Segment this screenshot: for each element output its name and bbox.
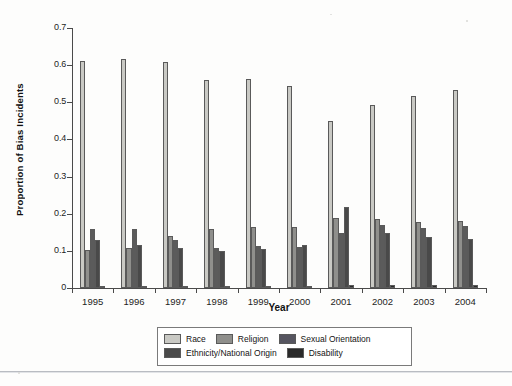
x-axis-tick xyxy=(196,288,197,293)
x-axis-tick xyxy=(238,288,239,293)
y-axis-tick xyxy=(67,139,72,140)
bar xyxy=(100,286,105,288)
y-axis-tick xyxy=(67,177,72,178)
y-axis-tick xyxy=(67,251,72,252)
legend-label: Sexual Orientation xyxy=(301,334,371,344)
bar xyxy=(349,285,354,288)
bar xyxy=(219,251,224,288)
x-axis-tick xyxy=(155,288,156,293)
x-axis-tick xyxy=(445,288,446,293)
legend-item: Disability xyxy=(287,348,343,358)
y-axis-line xyxy=(72,28,73,288)
bar xyxy=(302,245,307,288)
x-axis-tick xyxy=(320,288,321,293)
bar xyxy=(344,207,349,288)
bar xyxy=(307,286,312,288)
y-axis-title: Proportion of Bias Incidents xyxy=(14,50,32,250)
bar-group xyxy=(204,28,230,288)
legend-swatch-icon xyxy=(216,334,233,344)
bar xyxy=(132,229,137,288)
plot-area: 00.10.20.30.40.50.60.7 19951996199719981… xyxy=(72,28,486,288)
bar-group xyxy=(121,28,147,288)
bar xyxy=(385,233,390,288)
bar xyxy=(370,105,375,288)
bar xyxy=(287,86,292,288)
x-axis-tick xyxy=(113,288,114,293)
y-axis-tick xyxy=(67,28,72,29)
y-axis-tick-label: 0.2 xyxy=(46,208,66,218)
bar xyxy=(468,239,473,288)
x-axis-tick xyxy=(362,288,363,293)
bar-group xyxy=(287,28,313,288)
legend-label: Race xyxy=(186,334,206,344)
legend-label: Religion xyxy=(238,334,269,344)
y-axis-tick-label: 0 xyxy=(46,282,66,292)
bar xyxy=(426,237,431,288)
bar-group xyxy=(246,28,272,288)
bar xyxy=(142,286,147,288)
y-axis-tick xyxy=(67,214,72,215)
bar xyxy=(261,249,266,288)
bar xyxy=(297,247,302,288)
scan-speck xyxy=(466,20,468,22)
bar-group xyxy=(370,28,396,288)
bar-group xyxy=(163,28,189,288)
y-axis-tick-label: 0.5 xyxy=(46,96,66,106)
bar xyxy=(178,248,183,288)
bar-group xyxy=(328,28,354,288)
y-axis-tick xyxy=(67,65,72,66)
chart-legend: RaceReligionSexual OrientationEthnicity/… xyxy=(157,327,412,366)
bar xyxy=(292,227,297,288)
x-axis-tick xyxy=(279,288,280,293)
y-axis-tick-label: 0.6 xyxy=(46,59,66,69)
bar xyxy=(473,285,478,288)
y-axis-tick-label: 0.7 xyxy=(46,22,66,32)
bar xyxy=(251,227,256,288)
bar-group xyxy=(411,28,437,288)
y-axis-tick xyxy=(67,102,72,103)
bar xyxy=(90,229,95,288)
scan-speck xyxy=(330,14,332,15)
legend-item: Sexual Orientation xyxy=(279,334,371,344)
bar xyxy=(204,80,209,288)
bar xyxy=(411,96,416,288)
bar xyxy=(214,248,219,288)
y-axis-tick-label: 0.4 xyxy=(46,133,66,143)
bar xyxy=(246,79,251,288)
bar xyxy=(163,62,168,288)
legend-row: RaceReligionSexual Orientation xyxy=(164,332,405,346)
y-axis-tick-label: 0.3 xyxy=(46,171,66,181)
bar xyxy=(463,226,468,288)
bar xyxy=(266,286,271,288)
x-axis-tick xyxy=(486,288,487,293)
bar xyxy=(333,218,338,288)
bar xyxy=(168,236,173,288)
bar xyxy=(328,121,333,288)
bar xyxy=(390,285,395,288)
bar xyxy=(375,219,380,288)
scan-speck xyxy=(18,372,20,374)
bar xyxy=(80,61,85,288)
legend-swatch-icon xyxy=(287,348,304,358)
legend-swatch-icon xyxy=(164,334,181,344)
bar xyxy=(416,222,421,288)
bar xyxy=(121,59,126,288)
bar-group xyxy=(453,28,479,288)
bar xyxy=(421,228,426,288)
bar xyxy=(458,221,463,288)
bar xyxy=(256,246,261,288)
bar xyxy=(225,286,230,288)
bar xyxy=(183,286,188,288)
legend-item: Religion xyxy=(216,334,269,344)
legend-item: Ethnicity/National Origin xyxy=(164,348,277,358)
bar xyxy=(380,225,385,288)
bar xyxy=(126,248,131,288)
legend-item: Race xyxy=(164,334,206,344)
legend-swatch-icon xyxy=(164,348,181,358)
legend-row: Ethnicity/National OriginDisability xyxy=(164,346,405,360)
page-divider-shadow xyxy=(0,372,512,373)
bar xyxy=(209,229,214,288)
legend-label: Disability xyxy=(309,348,343,358)
bar xyxy=(339,233,344,288)
bar xyxy=(85,250,90,288)
